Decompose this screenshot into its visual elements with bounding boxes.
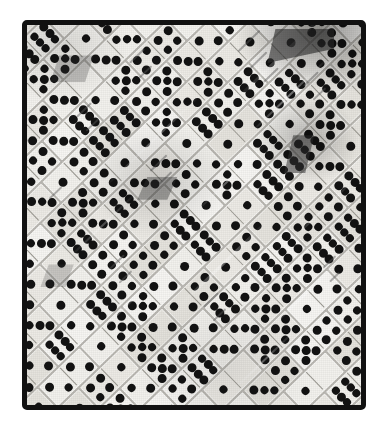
domino-pip	[191, 158, 202, 169]
domino-pip	[139, 178, 150, 189]
domino-pip	[80, 33, 91, 44]
domino-pip	[316, 37, 327, 48]
domino-pip	[221, 137, 234, 150]
domino-pip	[187, 404, 198, 405]
domino-pip	[129, 219, 140, 230]
domino-pip	[47, 134, 60, 147]
domino-pip	[27, 319, 35, 330]
domino-pip	[239, 323, 250, 334]
domino-pip	[38, 73, 51, 86]
domino-pip	[233, 56, 244, 67]
domino-pip	[284, 36, 297, 49]
domino-pip	[272, 200, 285, 213]
domino-pip	[68, 155, 81, 168]
domino-pip	[332, 345, 343, 356]
domino-pip	[189, 179, 200, 190]
domino-pip	[351, 345, 361, 356]
domino-pip	[84, 381, 97, 394]
domino-pip	[56, 217, 67, 228]
domino-pip	[350, 365, 361, 378]
domino-pip	[214, 25, 225, 26]
domino-pip	[188, 321, 201, 334]
domino-pip	[173, 25, 184, 26]
domino-pip	[250, 241, 261, 252]
domino-pip	[301, 304, 312, 315]
domino-pip	[183, 25, 194, 26]
domino-pip	[208, 281, 219, 292]
domino-pip	[269, 364, 282, 377]
domino-pip	[237, 404, 250, 405]
domino-pip	[139, 136, 152, 149]
domino-pip	[312, 283, 325, 296]
domino-pip	[117, 248, 128, 259]
domino-pip	[161, 25, 174, 37]
domino-pip	[161, 76, 172, 87]
domino-pip	[127, 239, 138, 250]
domino-pip	[141, 25, 154, 26]
domino-pip	[137, 301, 148, 312]
domino-pip	[106, 259, 117, 270]
domino-pip	[342, 295, 353, 306]
domino-pip	[217, 384, 228, 395]
domino-pip	[171, 178, 182, 189]
domino-pip	[356, 25, 361, 29]
domino-pip	[47, 93, 60, 106]
domino-pip	[27, 360, 35, 371]
domino-pip	[152, 34, 165, 47]
domino-pip	[120, 74, 133, 87]
domino-pip	[240, 273, 251, 284]
domino-pip	[335, 98, 348, 111]
domino-pip	[243, 35, 256, 48]
domino-pip	[332, 262, 345, 275]
domino-pip	[66, 320, 77, 331]
domino-pip	[64, 360, 77, 373]
domino-pip	[130, 95, 143, 108]
domino-pip	[356, 58, 361, 69]
domino-pip	[36, 196, 47, 207]
domino-pip	[356, 37, 361, 48]
domino-pip	[353, 284, 361, 295]
domino-pip	[168, 240, 179, 251]
domino-pip	[202, 76, 213, 87]
domino-pip	[263, 98, 274, 109]
domino-pip	[27, 278, 37, 291]
domino-pip	[148, 280, 161, 293]
domino-pip	[90, 95, 101, 106]
domino-pip	[150, 96, 161, 107]
domino-pip	[346, 58, 357, 69]
domino-pip	[28, 73, 39, 84]
domino-pip	[95, 341, 106, 352]
domino-pip	[66, 196, 79, 209]
domino-pip	[191, 75, 204, 88]
domino-pip	[314, 160, 325, 171]
domino-pip	[337, 25, 350, 29]
domino-pip	[230, 240, 243, 253]
domino-pip	[43, 380, 56, 393]
domino-pip	[171, 96, 182, 107]
domino-pip	[289, 365, 300, 376]
domino-pip	[88, 176, 101, 189]
domino-pip	[258, 385, 269, 396]
domino-pip	[181, 96, 192, 107]
domino-pip	[46, 217, 57, 228]
domino-pip	[351, 263, 361, 276]
domino-pip	[296, 25, 307, 28]
domino-pip	[284, 119, 295, 130]
domino-pip	[299, 386, 310, 397]
domino-pip	[86, 217, 99, 230]
domino-pip	[138, 250, 149, 261]
domino-pip	[355, 202, 361, 213]
domino-pip	[314, 119, 327, 132]
domino-pip	[145, 362, 158, 375]
photograph-canvas	[27, 25, 361, 405]
domino-pip	[27, 155, 38, 166]
domino-pip	[264, 25, 277, 28]
domino-pip	[224, 25, 235, 36]
domino-pip	[295, 57, 308, 70]
domino-pip	[167, 342, 178, 353]
domino-pip	[219, 260, 232, 273]
domino-pip	[121, 34, 132, 45]
domino-pip	[292, 221, 303, 232]
domino-pip	[48, 52, 61, 65]
domino-pip	[342, 314, 353, 325]
